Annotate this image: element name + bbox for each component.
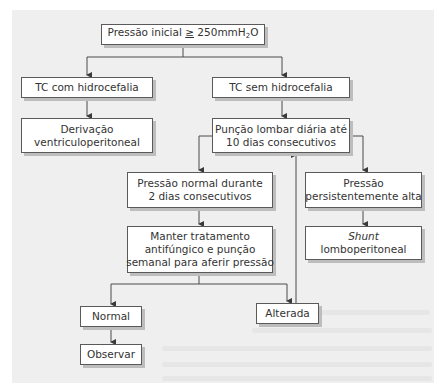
node-daily-lumbar-puncture: Punção lombar diária até 10 dias consecu… bbox=[212, 118, 350, 153]
node-label: Pressão normal durante bbox=[137, 177, 262, 190]
node-altered: Alterada bbox=[256, 303, 319, 324]
node-label: Derivação bbox=[60, 123, 113, 136]
node-ct-without-hydrocephalus: TC sem hidrocefalia bbox=[212, 77, 350, 98]
node-label: Observar bbox=[87, 348, 135, 361]
node-label: ventriculoperitoneal bbox=[34, 136, 140, 149]
node-label: Shunt bbox=[348, 230, 379, 243]
node-normal-pressure-2-days: Pressão normal durante 2 dias consecutiv… bbox=[127, 172, 273, 208]
node-initial-pressure: Pressão inicial ≥ 250mmH2O bbox=[101, 24, 265, 45]
node-label: Normal bbox=[92, 310, 130, 323]
node-label: 10 dias consecutivos bbox=[226, 136, 336, 149]
node-label: 2 dias consecutivos bbox=[148, 190, 251, 203]
node-lumboperitoneal-shunt: Shunt lomboperitoneal bbox=[305, 226, 422, 260]
node-initial-pressure-label: Pressão inicial ≥ 250mmH2O bbox=[108, 26, 259, 43]
node-label: antifúngico e punção bbox=[145, 243, 256, 256]
node-label: Alterada bbox=[265, 307, 310, 320]
node-label: lomboperitoneal bbox=[320, 243, 406, 256]
node-label: Manter tratamento bbox=[150, 230, 250, 243]
node-persistently-high-pressure: Pressão persistentemente alta bbox=[305, 172, 422, 208]
node-observe: Observar bbox=[80, 344, 142, 365]
node-ct-with-hydrocephalus: TC com hidrocefalia bbox=[21, 77, 153, 98]
node-ventriculoperitoneal-shunt: Derivação ventriculoperitoneal bbox=[21, 118, 153, 153]
node-label: semanal para aferir pressão bbox=[126, 256, 274, 269]
node-normal: Normal bbox=[80, 306, 142, 327]
node-label: Pressão bbox=[343, 177, 384, 190]
node-label: TC com hidrocefalia bbox=[35, 81, 139, 94]
node-label: persistentemente alta bbox=[305, 190, 421, 203]
node-maintain-treatment: Manter tratamento antifúngico e punção s… bbox=[127, 226, 273, 273]
node-label: Punção lombar diária até bbox=[215, 123, 347, 136]
node-label: TC sem hidrocefalia bbox=[229, 81, 332, 94]
